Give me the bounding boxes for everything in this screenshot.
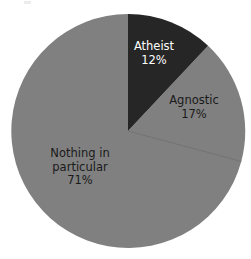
slice-label-agnostic: Agnostic 17% (144, 94, 244, 121)
slice-label-atheist: Atheist 12% (104, 40, 204, 67)
slice-label-atheist-value: 12% (104, 54, 204, 68)
slice-label-atheist-name: Atheist (104, 40, 204, 54)
slice-label-agnostic-name: Agnostic (144, 94, 244, 108)
slice-label-nothing-in-particular-value: 71% (29, 174, 131, 188)
slice-label-nothing-in-particular-line1: Nothing in (29, 147, 131, 161)
slice-label-nothing-in-particular: Nothing in particular 71% (29, 147, 131, 188)
slice-label-agnostic-value: 17% (144, 108, 244, 122)
slice-label-nothing-in-particular-line2: particular (29, 161, 131, 175)
pie-chart: Atheist 12% Agnostic 17% Nothing in part… (0, 0, 251, 259)
pie-chart-graphic (0, 0, 251, 259)
